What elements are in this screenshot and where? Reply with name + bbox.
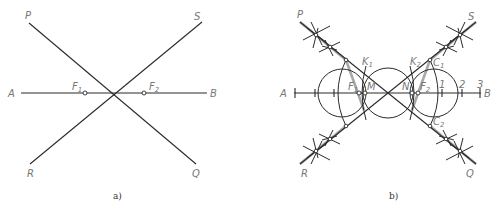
caption-b: b): [389, 191, 398, 201]
label-f2: F2: [420, 81, 431, 94]
point-r1: [314, 149, 318, 153]
label-b: B: [484, 88, 491, 99]
label-a: A: [7, 88, 15, 99]
label-a: A: [279, 88, 287, 99]
label-r: R: [27, 168, 34, 179]
label-c2: C2: [433, 116, 445, 129]
label-k1: K1: [362, 56, 373, 69]
label-n: N: [402, 81, 410, 92]
point-n: [410, 91, 414, 95]
label-c1: C1: [433, 57, 444, 70]
label-q: Q: [466, 168, 474, 179]
point-q2: [444, 137, 448, 141]
label-r: R: [301, 168, 308, 179]
point-r3: [344, 124, 348, 128]
label-f1: F1: [72, 81, 82, 94]
caption-a: a): [113, 191, 122, 201]
point-s1: [458, 33, 462, 37]
label-f2: F2: [149, 81, 160, 94]
label-q: Q: [192, 168, 200, 179]
label-p: P: [25, 10, 32, 21]
label-tick-2: 2: [459, 79, 465, 90]
label-tick-1: 1: [439, 79, 445, 90]
label-s: S: [194, 11, 201, 22]
focus-f1: [83, 91, 87, 95]
label-f1: F1: [348, 81, 358, 94]
point-c1: [428, 58, 432, 62]
figure-b: P S A B R Q K1 K2 F1 M N F2 C1 C2 1 2 3 …: [279, 9, 491, 201]
point-s2: [444, 45, 448, 49]
point-r2: [328, 137, 332, 141]
label-tick-3: 3: [477, 79, 483, 90]
diagram-canvas: P S A B R Q F1 F2 a): [0, 0, 497, 210]
point-p2: [328, 45, 332, 49]
point-q1: [458, 149, 462, 153]
point-p3: [344, 58, 348, 62]
figure-a: P S A B R Q F1 F2 a): [7, 10, 217, 201]
label-b: B: [210, 88, 217, 99]
label-m: M: [367, 81, 376, 92]
label-s: S: [468, 11, 475, 22]
point-c2: [428, 124, 432, 128]
label-p: P: [297, 9, 304, 20]
label-k2: K2: [410, 56, 422, 69]
point-p1: [314, 33, 318, 37]
focus-f2: [142, 91, 146, 95]
